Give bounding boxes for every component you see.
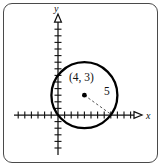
x-axis-label: x — [145, 110, 151, 121]
center-point-dot — [82, 93, 87, 98]
circle-graph-figure: (4, 3) 5 x y — [0, 0, 162, 167]
x-axis-arrow — [134, 112, 142, 119]
x-axis-group — [14, 112, 142, 119]
coordinate-plot: (4, 3) 5 x y — [0, 0, 162, 167]
center-point-label: (4, 3) — [69, 71, 94, 84]
y-axis-label: y — [53, 3, 59, 14]
radius-length-label: 5 — [104, 85, 110, 97]
y-axis-group — [55, 14, 62, 155]
y-axis-arrow — [55, 14, 62, 22]
